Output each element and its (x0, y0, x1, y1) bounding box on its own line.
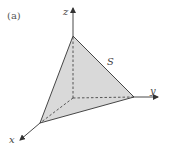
x-axis-label: x (9, 134, 15, 145)
panel-label: (a) (7, 10, 21, 21)
x-axis (20, 123, 40, 140)
surface-s (40, 36, 134, 123)
figure-canvas: (a) z y x S (0, 0, 177, 152)
tetrahedron-diagram: (a) z y x S (0, 0, 177, 152)
y-axis-label: y (149, 85, 156, 96)
surface-label: S (107, 56, 114, 67)
z-axis-label: z (62, 6, 69, 17)
